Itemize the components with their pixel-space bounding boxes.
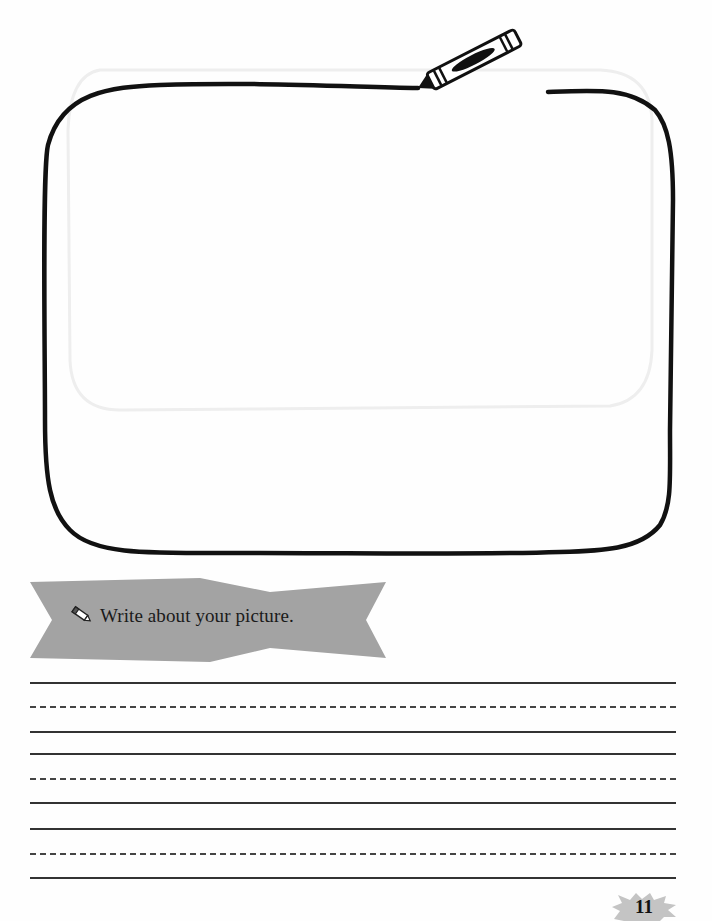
writing-line xyxy=(30,753,676,755)
writing-line xyxy=(30,802,676,804)
writing-line xyxy=(30,731,676,733)
writing-line xyxy=(30,682,676,684)
page-number-badge: 11 xyxy=(610,893,678,921)
writing-line-dashed xyxy=(30,778,676,780)
page-number: 11 xyxy=(610,896,678,918)
writing-line xyxy=(30,877,676,879)
writing-line xyxy=(30,828,676,830)
writing-line-dashed xyxy=(30,706,676,708)
writing-area[interactable] xyxy=(30,0,676,921)
writing-line-dashed xyxy=(30,853,676,855)
worksheet-page: Write about your picture. 11 xyxy=(0,0,712,921)
